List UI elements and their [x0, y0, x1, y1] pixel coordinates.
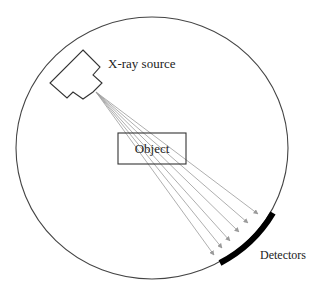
xray-beam [96, 92, 214, 255]
xray-source-label: X-ray source [108, 56, 176, 71]
xray-beam [96, 92, 230, 241]
xray-beam [96, 92, 222, 248]
ct-diagram: X-ray source Object Detectors [0, 0, 320, 288]
xray-beam [96, 92, 258, 214]
detectors-label: Detectors [260, 248, 306, 262]
diagram-canvas: X-ray source Object Detectors [0, 0, 320, 288]
xray-beam [96, 92, 239, 232]
xray-beams [96, 92, 258, 255]
xray-beam [96, 92, 248, 223]
xray-source-housing [50, 50, 102, 99]
object-label: Object [135, 141, 170, 156]
